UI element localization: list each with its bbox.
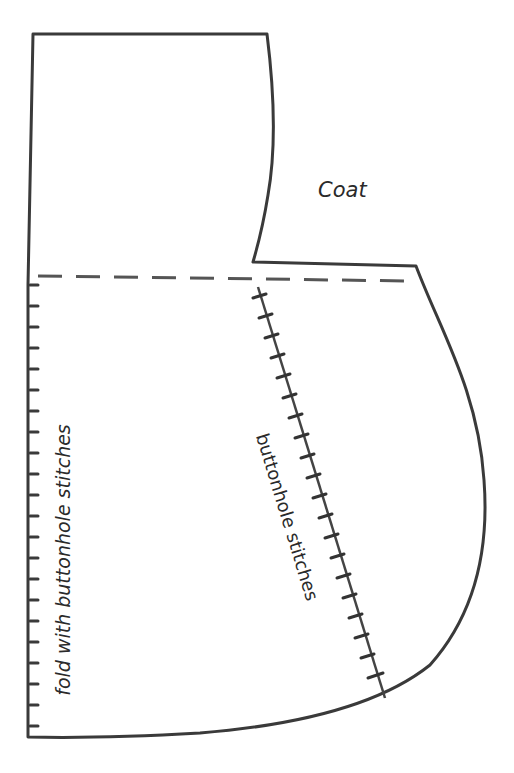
pattern-title: Coat bbox=[318, 180, 367, 201]
coat-outline bbox=[28, 34, 485, 737]
fold-label: fold with buttonhole stitches bbox=[54, 424, 73, 696]
left-edge-stitches bbox=[30, 285, 38, 726]
coat-pattern-diagram bbox=[0, 0, 514, 773]
fold-dashed-line bbox=[38, 276, 412, 281]
